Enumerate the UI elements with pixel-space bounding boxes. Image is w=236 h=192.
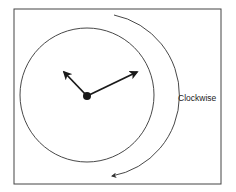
hour-hand [64,72,87,96]
center-pivot [83,92,91,100]
minute-hand [87,72,137,96]
clock-diagram: Clockwise [0,0,236,192]
clockwise-label: Clockwise [178,93,217,103]
